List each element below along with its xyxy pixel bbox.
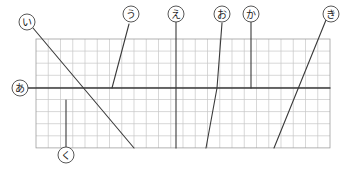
label-text-o: お (217, 9, 227, 20)
label-text-i: い (22, 17, 32, 28)
line-u (112, 24, 129, 88)
label-text-ka: か (246, 9, 256, 20)
label-text-a: あ (15, 83, 25, 94)
label-text-u: う (126, 9, 136, 20)
label-text-ki: き (326, 9, 336, 20)
grid-lines (36, 39, 330, 148)
worksheet-diagram: いうえおかきあく (0, 0, 353, 175)
grid-line-puzzle-svg: いうえおかきあく (0, 0, 353, 175)
label-text-ku: く (61, 150, 71, 161)
label-text-e: え (171, 9, 181, 20)
